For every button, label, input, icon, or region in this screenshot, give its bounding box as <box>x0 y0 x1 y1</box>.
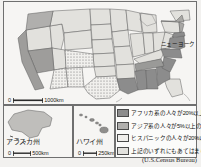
legend-swatch-african <box>117 109 129 117</box>
legend-label-african: アフリカ系の人々が20%以上の州 <box>131 109 201 117</box>
figure-root: 0 1000km ニューヨーク アラスカ州 0 <box>0 0 201 167</box>
legend-item-none: 上記のいずれにもあてはまらない州 <box>117 145 196 157</box>
state-louisiana <box>117 78 138 94</box>
state-colorado <box>65 50 94 68</box>
inset-label-hawaii: ハワイ州 <box>76 136 103 146</box>
state-alabama <box>146 69 158 89</box>
main-map-panel: 0 1000km ニューヨーク <box>3 1 197 105</box>
state-oregon <box>26 26 52 51</box>
state-texas <box>84 76 120 99</box>
legend-swatch-asian <box>117 122 129 130</box>
state-north-carolina <box>161 49 182 58</box>
legend-swatch-hispanic <box>117 134 129 142</box>
bottom-panel: アラスカ州 0 500km <box>3 105 197 158</box>
main-map-scale: 0 1000km <box>8 97 64 103</box>
state-missouri <box>114 46 134 65</box>
scale-bar-icon <box>13 98 43 103</box>
inset-alaska: アラスカ州 0 500km <box>3 105 73 158</box>
state-south-dakota <box>91 24 112 40</box>
state-arizona <box>50 68 68 89</box>
legend-label-asian: アジア系の人々が5%以上の州 <box>131 122 201 130</box>
state-wisconsin <box>126 10 142 32</box>
state-illinois <box>130 33 145 57</box>
state-nebraska <box>92 39 114 54</box>
us-mainland-map <box>4 2 196 104</box>
legend-item-hispanic: ヒスパニックの人々が20%以上の州 <box>117 132 196 144</box>
state-idaho <box>50 24 64 50</box>
legend-item-african: アフリカ系の人々が20%以上の州 <box>117 107 196 119</box>
source-attribution: (U.S.Census Bureau) <box>0 156 197 163</box>
state-iowa <box>112 30 130 47</box>
annotation-new-york: ニューヨーク <box>161 40 195 48</box>
legend-label-hispanic: ヒスパニックの人々が20%以上の州 <box>131 134 201 142</box>
state-michigan <box>140 13 157 33</box>
legend-swatch-none <box>117 147 129 155</box>
state-minnesota <box>110 9 128 32</box>
inset-label-alaska: アラスカ州 <box>6 136 40 146</box>
scale-zero: 0 <box>8 97 11 103</box>
inset-hawaii: ハワイ州 0 250km <box>73 105 115 158</box>
state-wyoming <box>64 30 92 50</box>
state-indiana <box>143 33 154 54</box>
state-utah <box>52 48 66 70</box>
state-pennsylvania <box>161 21 180 33</box>
state-oklahoma <box>94 66 116 77</box>
state-north-dakota <box>90 9 111 25</box>
scale-distance: 1000km <box>44 97 64 103</box>
hawaiian-islands <box>79 114 108 133</box>
state-florida <box>164 79 183 97</box>
state-alaska <box>8 110 52 138</box>
legend-label-none: 上記のいずれにもあてはまらない州 <box>131 147 201 155</box>
state-new-jersey <box>179 22 184 33</box>
state-kansas <box>93 53 115 67</box>
legend-item-asian: アジア系の人々が5%以上の州 <box>117 120 196 132</box>
map-legend: アフリカ系の人々が20%以上の州 アジア系の人々が5%以上の州 ヒスパニックの人… <box>115 105 197 158</box>
state-arkansas <box>116 64 135 79</box>
state-new-mexico <box>66 67 84 87</box>
